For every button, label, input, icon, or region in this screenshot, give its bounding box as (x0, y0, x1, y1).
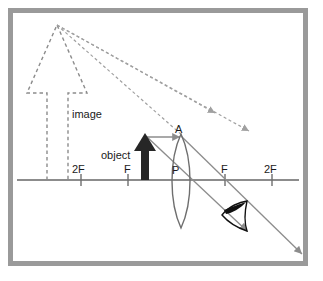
refracted-ray-through-focus (181, 136, 302, 254)
eye-icon (222, 201, 247, 231)
axis-label-2f-right: 2F (264, 164, 277, 175)
eye-outline (222, 201, 247, 231)
image-label: image (72, 109, 102, 120)
object-label: object (101, 150, 130, 161)
ray-diagram-canvas (0, 0, 323, 281)
figure-root: 2F F F 2F image object P A (0, 0, 323, 281)
image-arrow-dashed (27, 25, 87, 180)
lens-top-point-label: A (175, 124, 182, 135)
axis-label-2f-left: 2F (72, 164, 85, 175)
axis-label-f-left: F (124, 164, 131, 175)
object-arrow (134, 133, 156, 180)
eye-pupil (224, 202, 246, 214)
image-arrow-outline (27, 25, 87, 180)
object-arrow-shaft (141, 148, 149, 180)
principal-point-label: P (172, 165, 179, 176)
axis-label-f-right: F (221, 164, 228, 175)
